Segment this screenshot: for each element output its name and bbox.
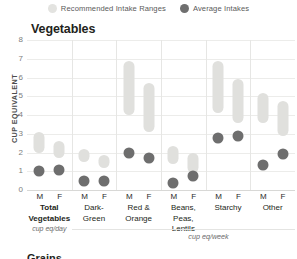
x-axis-group: MFStarchy [206,191,251,213]
range-bar [143,83,154,132]
sex-tick-label: M [126,191,133,202]
legend-label: Recommended Intake Ranges [61,4,166,13]
average-intake-dot [277,149,288,160]
sex-tick-label: M [37,191,44,202]
y-axis-tick: 5 [19,92,23,100]
range-bar [34,132,45,153]
y-axis-tick: 0 [19,186,23,194]
sex-tick-label: F [191,191,196,202]
x-axis-category-label: Red & [116,203,161,213]
x-axis-category-label: Orange [116,214,161,224]
chart-title: Vegetables [31,22,95,36]
sex-tick-row: MF [72,191,117,202]
sex-tick-label: F [147,191,152,202]
sex-tick-label: M [215,191,222,202]
plot-area: 012345678 [27,40,295,190]
average-intake-dot [233,130,244,141]
average-intake-dot [213,133,224,144]
sex-tick-label: M [260,191,267,202]
sex-tick-label: F [57,191,62,202]
x-axis-category-label: Dark- [72,203,117,213]
average-intake-dot [54,165,65,176]
shared-unit-note: cup eq/week [120,232,297,241]
average-intake-dot [79,175,90,186]
average-intake-dot [34,166,45,177]
x-axis-unit-label: cup eq/day [27,224,72,233]
next-section-title-clipped: Grains [27,252,62,259]
chart-legend: Recommended Intake Ranges Average Intake… [0,0,297,16]
sex-tick-row: MF [161,191,206,202]
x-axis-group: MFRed &Orange [116,191,161,223]
y-axis-tick: 2 [19,149,23,157]
x-axis-category-label: Vegetables [27,214,72,224]
x-axis-category-label: Green [72,214,117,224]
circle-swatch-icon [180,4,189,13]
group-separator [206,40,207,190]
sex-tick-label: F [102,191,107,202]
average-intake-dot [123,147,134,158]
average-intake-dot [168,177,179,188]
legend-label: Average Intakes [193,4,249,13]
sex-tick-label: M [81,191,88,202]
x-axis-category-label: Beans, [161,203,206,213]
range-bar [257,93,268,123]
y-axis-tick: 6 [19,74,23,82]
y-axis-tick: 3 [19,130,23,138]
range-bar [233,79,244,122]
x-axis-category-label: Peas, [161,214,206,224]
range-bar [54,141,65,158]
group-separator [250,40,251,190]
x-axis-category-label: Total [27,203,72,213]
range-bar [123,61,134,115]
y-axis-label: CUP EQUIVALENT [10,64,19,154]
x-axis-category-label: Other [250,203,295,213]
x-axis-group: MFBeans,Peas,Lentils [161,191,206,234]
x-axis-category-label: Starchy [206,203,251,213]
sex-tick-label: F [236,191,241,202]
sex-tick-row: MF [27,191,72,202]
group-separator [116,40,117,190]
x-axis-group: MFTotalVegetablescup eq/day [27,191,72,233]
x-axis-group: MFDark-Green [72,191,117,223]
sex-tick-row: MF [250,191,295,202]
y-axis-tick: 4 [19,111,23,119]
x-axis-group: MFOther [250,191,295,213]
average-intake-dot [257,159,268,170]
y-axis-tick: 1 [19,167,23,175]
average-intake-dot [143,153,154,164]
circle-swatch-icon [48,4,57,13]
range-bar [277,101,288,136]
sex-tick-row: MF [206,191,251,202]
sex-tick-label: F [281,191,286,202]
range-bar [79,149,90,162]
legend-item-average-intakes: Average Intakes [180,4,249,13]
sex-tick-label: M [171,191,178,202]
group-separator [72,40,73,190]
week-unit-rule [72,229,295,230]
group-separator [161,40,162,190]
range-bar [213,61,224,114]
range-bar [99,155,110,167]
y-axis-tick: 8 [19,36,23,44]
average-intake-dot [99,175,110,186]
legend-item-recommended-intake-ranges: Recommended Intake Ranges [48,4,166,13]
sex-tick-row: MF [116,191,161,202]
y-axis-tick: 7 [19,55,23,63]
average-intake-dot [188,170,199,181]
range-bar [168,146,179,164]
